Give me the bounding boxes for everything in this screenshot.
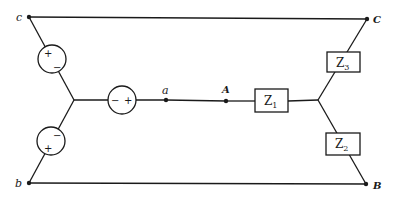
node-label-A: A bbox=[221, 84, 230, 95]
node-dot-c bbox=[27, 15, 31, 19]
node-dot-a bbox=[164, 98, 168, 102]
source-plus-sign: + bbox=[44, 143, 52, 154]
node-label-B: B bbox=[372, 180, 381, 191]
impedance-Z2: Z2 bbox=[326, 133, 360, 155]
impedance-Z3: Z3 bbox=[327, 52, 360, 72]
voltage-source-horizontal: − + bbox=[108, 86, 136, 114]
impedance-Z1: Z1 bbox=[255, 89, 288, 112]
wire-c-to-C bbox=[29, 17, 367, 19]
node-label-a: a bbox=[162, 84, 169, 97]
voltage-source-lower-left: − + bbox=[37, 127, 65, 155]
wire-b-to-B bbox=[29, 183, 366, 184]
voltage-source-upper-left: + − bbox=[38, 45, 66, 73]
source-minus-sign: − bbox=[53, 62, 61, 73]
node-dot-A bbox=[224, 99, 228, 103]
source-minus-sign: − bbox=[111, 95, 119, 106]
wire-a-to-A bbox=[166, 100, 226, 101]
node-dot-b bbox=[27, 181, 31, 185]
node-label-C: C bbox=[373, 14, 381, 25]
circuit-diagram: + − − + − + Z1 Z3 Z2 c b a C B A bbox=[0, 0, 395, 198]
node-label-c: c bbox=[16, 11, 22, 24]
node-label-b: b bbox=[15, 177, 22, 190]
source-minus-sign: − bbox=[53, 130, 61, 141]
wire-Z1-to-junction bbox=[288, 100, 318, 101]
node-dot-B bbox=[364, 182, 368, 186]
source-plus-sign: + bbox=[44, 48, 52, 59]
source-plus-sign: + bbox=[124, 95, 132, 106]
node-dot-C bbox=[365, 17, 369, 21]
